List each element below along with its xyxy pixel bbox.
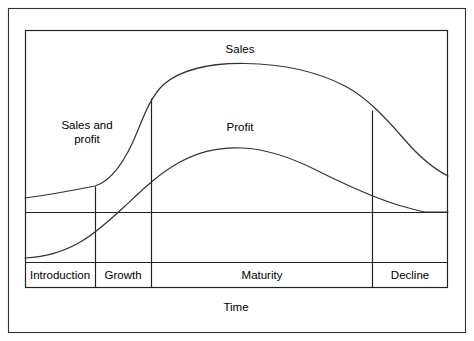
sales-curve-label: Sales (226, 42, 255, 56)
y-axis-title: Sales and profit (61, 118, 112, 147)
y-axis-title-line-2: profit (61, 132, 112, 146)
stage-label-maturity: Maturity (242, 268, 283, 282)
stage-label-growth: Growth (104, 268, 141, 282)
x-axis-title: Time (223, 300, 248, 314)
profit-curve-label: Profit (227, 120, 254, 134)
profit-curve (25, 148, 448, 258)
stage-label-introduction: Introduction (30, 268, 90, 282)
plot-area-box (26, 31, 448, 288)
stage-label-decline: Decline (391, 268, 429, 282)
y-axis-title-line-1: Sales and (61, 118, 112, 132)
outer-border (9, 9, 466, 333)
product-life-cycle-figure: Sales and profit Sales Profit Introducti… (0, 0, 474, 341)
